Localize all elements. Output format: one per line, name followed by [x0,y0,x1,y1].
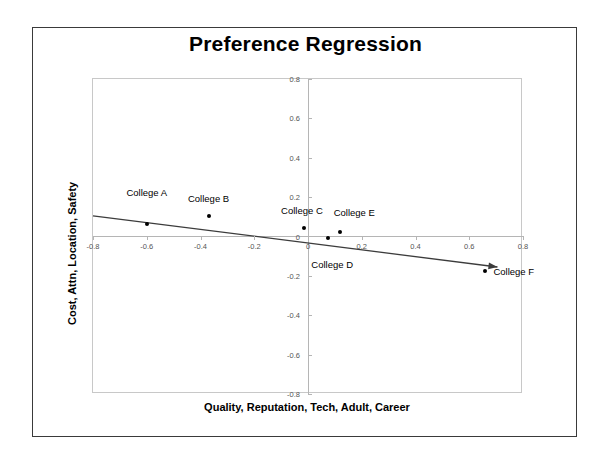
y-tick-label: -0.8 [287,390,300,399]
data-point-marker [326,236,330,240]
x-tick-mark [308,236,309,240]
x-tick-mark [147,236,148,240]
data-point-marker [338,230,342,234]
data-point-marker [145,222,149,226]
plot-area: -0.8-0.6-0.4-0.200.20.40.60.8 0.80.60.40… [92,78,522,393]
y-tick-mark [308,158,312,159]
y-tick-mark [308,79,312,80]
y-tick-mark [308,118,312,119]
data-point-label: College C [281,204,323,215]
x-tick-label: 0.8 [518,242,528,251]
y-tick-mark [308,355,312,356]
x-tick-mark [201,236,202,240]
y-tick-label: 0.6 [290,114,300,123]
y-tick-label: 0.8 [290,75,300,84]
x-tick-label: -0.6 [140,242,153,251]
data-point-label: College D [311,259,353,270]
y-tick-mark [308,197,312,198]
x-tick-label: 0.4 [410,242,420,251]
x-tick-mark [93,236,94,240]
y-tick-mark [308,276,312,277]
data-point-marker [302,226,306,230]
page-title: Preference Regression [0,32,611,56]
x-tick-label: 0.2 [357,242,367,251]
y-tick-label: 0.2 [290,193,300,202]
y-tick-label: 0 [296,232,300,241]
x-tick-mark [416,236,417,240]
y-tick-label: -0.2 [287,271,300,280]
y-tick-label: 0.4 [290,153,300,162]
x-tick-mark [254,236,255,240]
data-point-label: College E [334,206,375,217]
data-point-label: College A [126,186,167,197]
x-tick-label: -0.2 [248,242,261,251]
y-tick-mark [308,315,312,316]
y-tick-label: -0.4 [287,311,300,320]
x-tick-label: -0.8 [87,242,100,251]
slide-canvas: Preference Regression -0.8-0.6-0.4-0.200… [0,0,611,468]
x-tick-label: -0.4 [194,242,207,251]
x-tick-mark [469,236,470,240]
y-tick-label: -0.6 [287,350,300,359]
data-point-label: College B [188,192,229,203]
x-tick-label: 0.6 [464,242,474,251]
x-tick-label: 0 [306,242,310,251]
data-point-label: College F [493,265,534,276]
data-point-marker [207,214,211,218]
y-axis-title: Cost, Attn, Location, Safety [66,182,78,325]
y-tick-mark [308,394,312,395]
x-tick-mark [362,236,363,240]
x-axis-title: Quality, Reputation, Tech, Adult, Career [92,401,522,413]
x-tick-mark [523,236,524,240]
data-point-marker [483,269,487,273]
